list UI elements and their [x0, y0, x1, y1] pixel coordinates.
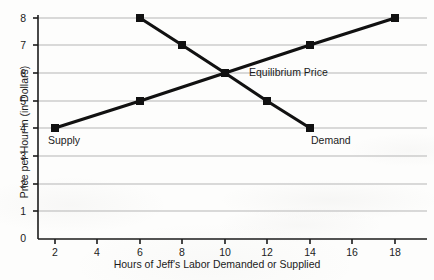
y-tick-label-0: 0 — [8, 233, 26, 244]
equilibrium-price-label: Equilibrium Price — [249, 66, 328, 78]
series-label-supply: Supply — [48, 134, 80, 146]
y-axis-title: Price per Hour in (in Dollars) — [18, 52, 30, 212]
data-point-marker — [221, 69, 229, 77]
data-point-marker — [178, 41, 186, 49]
x-tick-label-6: 6 — [128, 247, 152, 258]
chart-screenshot: 0 1 2 3 4 5 6 7 8 2 4 6 8 10 12 14 16 18… — [0, 0, 434, 280]
x-axis-title: Hours of Jeff's Labor Demanded or Suppli… — [0, 258, 434, 270]
data-point-marker — [263, 97, 271, 105]
data-point-marker — [306, 124, 314, 132]
x-tick-label-14: 14 — [298, 247, 322, 258]
x-tick-label-12: 12 — [255, 247, 279, 258]
x-tick-label-10: 10 — [213, 247, 237, 258]
axis-spines — [38, 15, 427, 239]
y-tick-label-8: 8 — [8, 13, 26, 24]
x-tick-label-16: 16 — [340, 247, 364, 258]
series-label-demand: Demand — [311, 134, 351, 146]
data-point-marker — [391, 14, 399, 22]
y-tick-label-7: 7 — [8, 40, 26, 51]
x-tick-label-18: 18 — [383, 247, 407, 258]
x-tick-label-2: 2 — [43, 247, 67, 258]
data-point-marker — [136, 14, 144, 22]
x-tick-label-8: 8 — [170, 247, 194, 258]
data-point-marker — [136, 97, 144, 105]
x-tick-label-4: 4 — [85, 247, 109, 258]
data-point-marker — [51, 124, 59, 132]
data-point-marker — [306, 41, 314, 49]
